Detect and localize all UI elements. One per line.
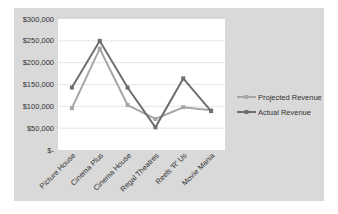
y-tick-label: $150,000 <box>23 80 54 89</box>
y-tick-label: $100,000 <box>23 102 54 111</box>
legend-label: Projected Revenue <box>258 93 322 102</box>
data-point-marker <box>153 117 157 121</box>
legend-marker <box>245 95 249 99</box>
data-point-marker <box>209 109 213 113</box>
data-point-marker <box>181 76 185 80</box>
y-axis-ticks: $300,000$250,000$200,000$150,000$100,000… <box>23 15 55 155</box>
y-tick-label: $- <box>47 146 54 155</box>
data-point-marker <box>70 106 74 110</box>
x-axis-ticks: Picture HouseCinema PlusCinema HouseRega… <box>38 150 217 193</box>
y-tick-label: $50,000 <box>27 124 54 133</box>
data-point-marker <box>126 103 130 107</box>
legend: Projected RevenueActual Revenue <box>237 93 322 117</box>
data-point-marker <box>98 47 102 51</box>
y-tick-label: $250,000 <box>23 36 54 45</box>
legend-label: Actual Revenue <box>258 108 311 117</box>
y-tick-label: $200,000 <box>23 58 54 67</box>
data-point-marker <box>153 125 157 129</box>
y-tick-label: $300,000 <box>23 15 54 24</box>
data-point-marker <box>98 39 102 43</box>
line-chart: $300,000$250,000$200,000$150,000$100,000… <box>0 0 338 214</box>
data-point-marker <box>181 105 185 109</box>
data-point-marker <box>70 86 74 90</box>
data-point-marker <box>126 86 130 90</box>
legend-marker <box>245 110 249 114</box>
